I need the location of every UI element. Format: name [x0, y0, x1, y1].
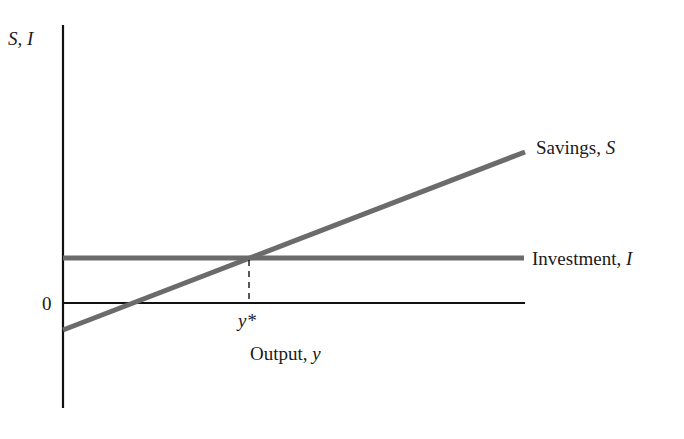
origin-label: 0	[42, 293, 52, 314]
savings-investment-diagram: S, I 0 y* Output, y Savings, S Investmen…	[0, 0, 684, 439]
x-axis-label: Output, y	[250, 343, 321, 364]
equilibrium-label: y*	[236, 310, 256, 331]
investment-label: Investment, I	[532, 248, 634, 269]
y-axis-label: S, I	[8, 28, 35, 49]
savings-label: Savings, S	[536, 137, 616, 158]
